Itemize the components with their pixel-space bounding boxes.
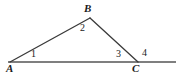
angle-label-1: 1 xyxy=(31,49,36,59)
vertex-label-b: B xyxy=(84,3,91,14)
side-bc-segment xyxy=(90,18,138,62)
angle-label-4: 4 xyxy=(142,48,147,58)
side-ab-segment xyxy=(10,18,90,62)
vertex-label-c: C xyxy=(132,63,139,74)
geometry-figure: B A C 1 2 3 4 xyxy=(0,0,181,75)
vertex-label-a: A xyxy=(6,63,13,74)
angle-label-3: 3 xyxy=(116,49,121,59)
angle-label-2: 2 xyxy=(80,23,85,33)
